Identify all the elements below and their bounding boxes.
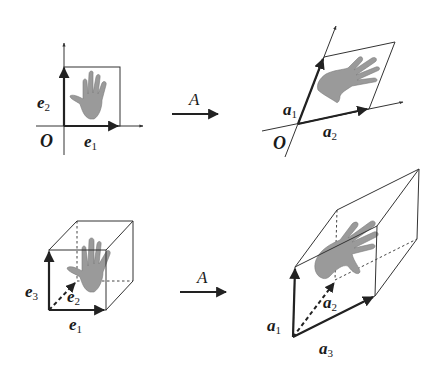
- label-a2: a2: [323, 293, 337, 313]
- panel-3d-original: e3 e2 e1: [25, 221, 133, 335]
- vector-a2: [298, 109, 367, 124]
- parallelepiped-edge: [377, 169, 419, 226]
- map-label: A: [188, 90, 200, 109]
- label-e3: e3: [25, 282, 39, 302]
- cube-edge: [106, 221, 133, 250]
- map-label: A: [196, 268, 208, 287]
- label-a3: a3: [319, 339, 334, 359]
- map-arrow-2d: A: [172, 90, 218, 114]
- panel-2d-original: e2 O e1: [36, 43, 143, 155]
- label-e1: e1: [69, 315, 82, 335]
- panel-3d-transformed: a1 a2 a3: [267, 169, 419, 359]
- cube-edge: [49, 221, 77, 250]
- origin-label: O: [273, 133, 286, 153]
- cube-edge: [106, 281, 133, 310]
- label-a2: a2: [323, 122, 337, 142]
- label-e2: e2: [67, 287, 80, 307]
- label-a1: a1: [283, 100, 297, 120]
- map-arrow-3d: A: [180, 268, 226, 292]
- label-a1: a1: [267, 316, 281, 336]
- hand-icon: [317, 57, 379, 103]
- panel-2d-transformed: a1 O a2: [262, 26, 403, 157]
- origin-label: O: [40, 131, 53, 151]
- hand-icon: [315, 221, 378, 279]
- label-e2: e2: [37, 93, 50, 113]
- linear-map-diagram: e2 O e1 A a1 O a2: [0, 0, 441, 368]
- label-e1: e1: [84, 132, 97, 152]
- vector-a1: [293, 269, 295, 337]
- parallelepiped-edge: [375, 239, 417, 296]
- hand-icon: [70, 71, 106, 119]
